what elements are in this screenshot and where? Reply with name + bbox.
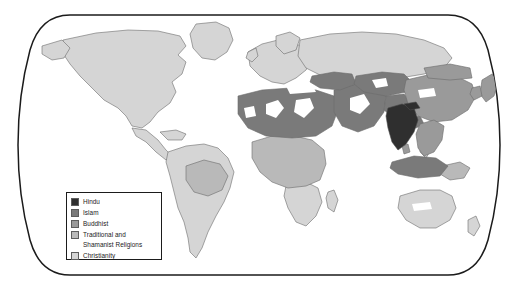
legend-item-hindu[interactable]: Hindu — [71, 197, 161, 208]
legend-swatch-buddhist — [71, 220, 79, 228]
legend-swatch-islam — [71, 209, 79, 217]
legend-swatch-christianity — [71, 252, 79, 260]
legend-item-buddhist[interactable]: Buddhist — [71, 219, 161, 230]
legend-item-christianity[interactable]: Christianity — [71, 251, 161, 262]
legend-item-traditional[interactable]: Traditional and Shamanist Religions — [71, 230, 161, 251]
legend-label-islam: Islam — [83, 208, 99, 218]
legend-item-islam[interactable]: Islam — [71, 208, 161, 219]
map-legend: Hindu Islam Buddhist Traditional and Sha… — [66, 192, 162, 260]
void-sahel — [244, 106, 256, 118]
legend-label-traditional: Traditional and Shamanist Religions — [83, 230, 142, 251]
map-figure: Hindu Islam Buddhist Traditional and Sha… — [0, 0, 518, 289]
legend-label-christianity: Christianity — [83, 251, 115, 261]
legend-label-hindu: Hindu — [83, 197, 100, 207]
legend-label-buddhist: Buddhist — [83, 219, 108, 229]
legend-swatch-hindu — [71, 198, 79, 206]
legend-swatch-traditional — [71, 231, 79, 239]
